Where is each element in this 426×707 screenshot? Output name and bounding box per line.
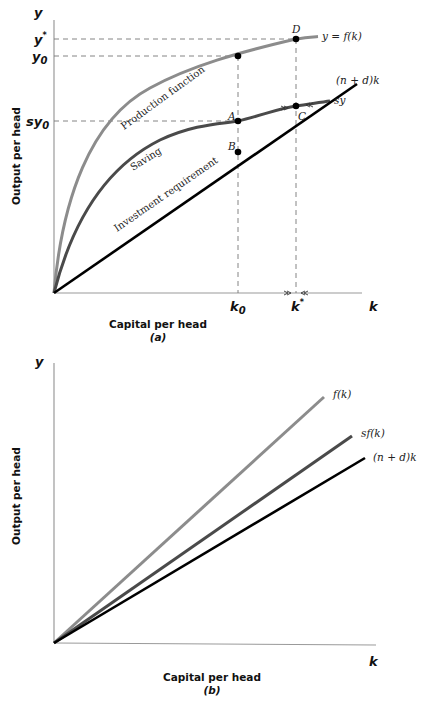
- x-axis-symbol: k: [369, 654, 379, 669]
- point-f-k0: [235, 53, 242, 60]
- x-axis-title: Capital per head: [109, 318, 207, 330]
- label-a: A: [227, 110, 236, 122]
- point-a: [235, 118, 242, 125]
- k0-tick: k0: [230, 299, 246, 316]
- panel-b-caption: (b): [203, 684, 220, 696]
- y0-tick: y0: [32, 49, 47, 66]
- investment-requirement-label: Investment requirement: [112, 154, 220, 233]
- x-axis: [54, 643, 376, 645]
- panel-a-caption: (a): [150, 331, 167, 343]
- investment-requirement-line: [54, 84, 357, 293]
- y-star-tick: y*: [34, 31, 47, 47]
- panel-a: Production function Saving Investment re…: [10, 5, 380, 343]
- nd-k-label: (n + d)k: [373, 451, 417, 463]
- figure-canvas: Production function Saving Investment re…: [0, 0, 426, 707]
- panel-b: f(k) sf(k) (n + d)k y k Output per head …: [10, 354, 417, 696]
- y-axis-title: Output per head: [10, 107, 22, 205]
- points: [235, 36, 300, 156]
- saving-end-label: sy: [334, 94, 346, 106]
- f-k-label: f(k): [332, 388, 351, 400]
- nd-k-line: [54, 458, 365, 643]
- point-c: [293, 103, 300, 110]
- production-end-label: y = f(k): [321, 30, 362, 42]
- x-axis-title: Capital per head: [163, 671, 261, 683]
- sy0-tick: sy0: [26, 114, 49, 131]
- k-star-tick: k*: [291, 298, 305, 314]
- f-k-line: [54, 397, 324, 643]
- y-axis-symbol: y: [35, 354, 44, 369]
- label-d: D: [291, 23, 301, 35]
- x-axis-symbol: k: [369, 299, 379, 314]
- point-d: [293, 36, 300, 43]
- investment-end-label: (n + d)k: [336, 74, 380, 86]
- sf-k-label: sf(k): [361, 427, 385, 439]
- y-axis-symbol: y: [34, 5, 43, 20]
- label-b: B: [227, 140, 236, 152]
- sf-k-line: [54, 436, 352, 643]
- y-axis-title: Output per head: [10, 447, 22, 545]
- label-c: C: [298, 110, 306, 122]
